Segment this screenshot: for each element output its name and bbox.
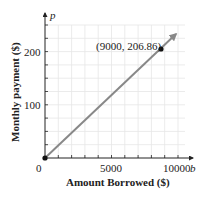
x-variable-label: b [190,162,196,174]
x-tick-label-5000: 5000 [100,162,123,174]
x-tick-label-10000: 10000 [163,162,191,174]
y-tick-label-100: 100 [24,99,41,111]
x-tick-label-0: 0 [36,162,42,174]
y-axis-title: Monthly payment ($) [9,42,22,142]
x-axis-title: Amount Borrowed ($) [66,176,170,189]
y-variable-label: p [49,9,56,21]
y-tick-label-200: 200 [24,46,41,58]
data-line [45,34,176,158]
origin-point [42,155,47,160]
point-label: (9000, 206.86) [96,40,161,53]
chart: (9000, 206.86) 0 5000 10000 b 200 100 p … [0,0,200,200]
